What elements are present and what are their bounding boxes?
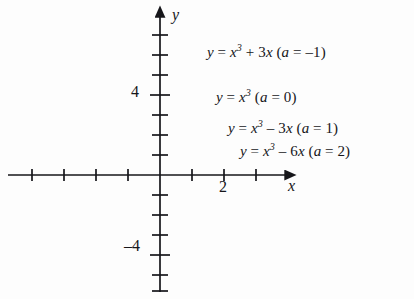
label-var: x: [286, 120, 293, 136]
label-base: x: [230, 44, 237, 60]
label-lhs: y: [216, 89, 223, 105]
label-base: x: [263, 143, 270, 159]
label-eq: =: [214, 44, 230, 60]
label-lhs: y: [240, 143, 247, 159]
y-tick-label-4: 4: [131, 83, 139, 101]
label-eq: =: [247, 143, 263, 159]
y-axis-label: y: [172, 6, 179, 24]
label-var: x: [266, 44, 273, 60]
label-var: x: [298, 143, 305, 159]
curve-label-a-0: y = x3 (a = 0): [216, 89, 297, 106]
label-eq: =: [223, 89, 239, 105]
label-base: x: [239, 89, 246, 105]
y-tick-label-minus-4: –4: [124, 237, 140, 255]
label-a-value: = –1): [289, 44, 326, 60]
label-a-value: = 1): [309, 120, 338, 136]
curve-label-a-2: y = x3 – 6x (a = 2): [240, 143, 350, 160]
label-lhs: y: [207, 44, 214, 60]
label-a-value: = 0): [268, 89, 297, 105]
x-tick-label-2: 2: [219, 178, 227, 196]
x-axis-label: x: [288, 177, 295, 195]
label-term: – 3: [263, 120, 286, 136]
label-a-value: = 2): [321, 143, 350, 159]
label-a-symbol: a: [260, 89, 268, 105]
label-lhs: y: [228, 120, 235, 136]
cubic-family-figure: y x 4 –4 2 y = x3 + 3x (a = –1) y = x3 (…: [0, 0, 414, 299]
label-term: + 3: [242, 44, 266, 60]
curve-label-a-neg1: y = x3 + 3x (a = –1): [207, 44, 326, 61]
curve-label-a-1: y = x3 – 3x (a = 1): [228, 120, 338, 137]
label-term: – 6: [275, 143, 298, 159]
label-eq: =: [235, 120, 251, 136]
label-base: x: [251, 120, 258, 136]
